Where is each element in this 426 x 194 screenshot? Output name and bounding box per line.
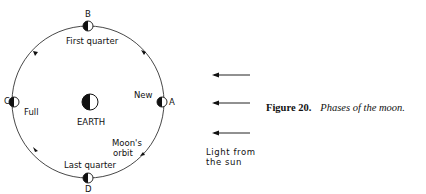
position-letter-d: D (85, 185, 92, 194)
figure-caption: Figure 20.Phases of the moon. (266, 102, 405, 113)
sunlight-arrow-3 (212, 131, 250, 136)
sunlight-label-line1: Light from (206, 148, 256, 157)
phase-label-first-quarter: First quarter (66, 37, 118, 46)
position-letter-c: C (4, 97, 10, 106)
earth-icon (82, 94, 98, 110)
earth-label: EARTH (77, 118, 105, 127)
moon-icon-b (83, 21, 93, 31)
phase-label-new: New (134, 91, 153, 100)
position-letter-b: B (85, 10, 91, 19)
moon-icon-d (83, 173, 93, 183)
orbit-label-line2: orbit (113, 149, 133, 158)
position-letter-a: A (169, 98, 175, 107)
moon-icon-a (157, 97, 167, 107)
orbit-arrow-upper-left (33, 51, 38, 56)
sunlight-arrow-1 (212, 73, 250, 78)
orbit-label-line1: Moon's (112, 139, 142, 148)
orbit-arrow-upper-right (141, 50, 146, 55)
moon-icon-c (9, 97, 19, 107)
sunlight-arrow-2 (212, 101, 250, 106)
phase-label-last-quarter: Last quarter (64, 161, 116, 170)
orbit-arrow-lower-left (33, 147, 38, 152)
figure-number: Figure 20. (266, 102, 311, 113)
figure-title: Phases of the moon. (320, 102, 405, 113)
phase-label-full: Full (24, 108, 39, 117)
sunlight-label-line2: the sun (206, 158, 242, 167)
